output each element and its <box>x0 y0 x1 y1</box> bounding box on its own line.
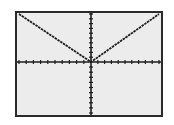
graph-plot <box>17 13 161 115</box>
calculator-screen <box>15 11 163 117</box>
